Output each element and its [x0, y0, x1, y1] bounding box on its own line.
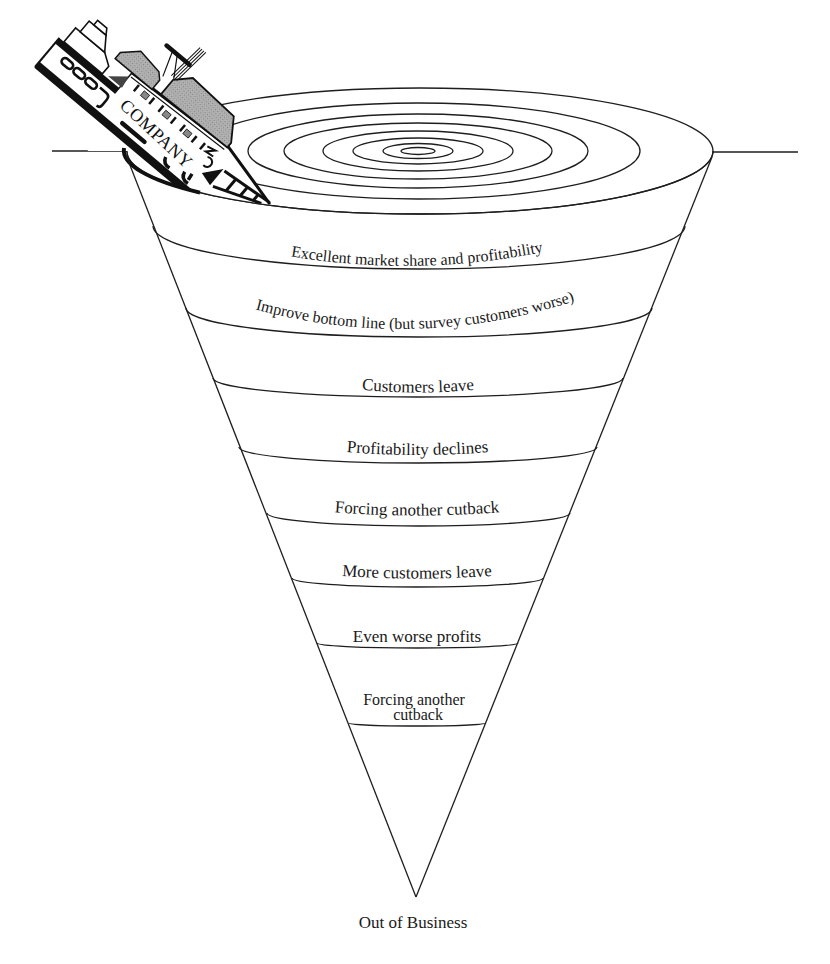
- stage-2-text: Improve bottom line (but survey customer…: [254, 288, 576, 333]
- stage-5-label: Forcing another cutback: [334, 497, 500, 519]
- antenna-line: [173, 47, 202, 80]
- death-spiral-funnel-diagram: COMPANY: [0, 0, 830, 964]
- stage-7-label: Even worse profits: [353, 627, 481, 646]
- ripple-center: [401, 148, 435, 155]
- stage-2-label: Improve bottom line (but survey customer…: [254, 288, 576, 333]
- stage-3-text: Customers leave: [361, 375, 474, 397]
- antenna-line: [175, 48, 204, 81]
- out-of-business-label: Out of Business: [359, 913, 468, 932]
- ripple-ring: [196, 103, 640, 199]
- ripple-ring: [353, 138, 483, 164]
- funnel-bands: [153, 226, 685, 726]
- stage-1-label: Excellent market share and profitability: [290, 238, 544, 269]
- ripple-ring: [248, 114, 588, 188]
- ripple-ring: [323, 131, 513, 171]
- band-divider: [349, 723, 485, 726]
- stage-8-label-line-2: cutback: [393, 706, 443, 723]
- stage-5-text: Forcing another cutback: [334, 497, 500, 519]
- stage-4-text: Profitability declines: [346, 437, 489, 459]
- page: COMPANY: [0, 0, 830, 964]
- stage-1-text: Excellent market share and profitability: [290, 238, 544, 269]
- stage-6-text: More customers leave: [342, 561, 493, 583]
- sinking-ship-icon: COMPANY: [16, 0, 343, 283]
- ripple-ring: [383, 144, 453, 159]
- stage-6-label: More customers leave: [342, 561, 493, 583]
- stage-3-label: Customers leave: [361, 375, 474, 397]
- stage-4-label: Profitability declines: [346, 437, 489, 459]
